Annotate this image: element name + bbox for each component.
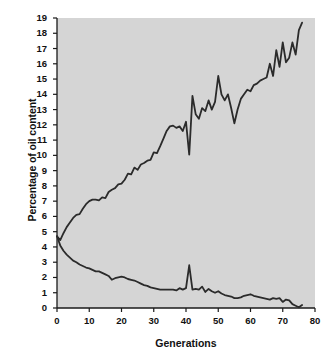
line-chart-plot — [0, 0, 330, 361]
y-axis-tick-label: 15 — [25, 73, 47, 84]
y-axis-tick-label: 10 — [25, 149, 47, 160]
y-axis-tick-label: 17 — [25, 43, 47, 54]
x-axis-tick-label: 80 — [303, 315, 327, 326]
x-axis-tick-label: 20 — [110, 315, 134, 326]
y-axis-tick-label: 13 — [25, 104, 47, 115]
x-axis-title: Generations — [57, 337, 315, 349]
y-axis-tick-label: 2 — [25, 271, 47, 282]
x-axis-tick-label: 30 — [142, 315, 166, 326]
x-axis-tick-label: 10 — [77, 315, 101, 326]
y-axis-tick-label: 5 — [25, 226, 47, 237]
plot-background — [57, 18, 315, 308]
y-axis-tick-label: 4 — [25, 241, 47, 252]
y-axis-tick-label: 11 — [25, 134, 47, 145]
x-axis-tick-label: 0 — [45, 315, 69, 326]
y-axis-tick-label: 12 — [25, 119, 47, 130]
y-axis-tick-label: 3 — [25, 256, 47, 267]
y-axis-tick-label: 14 — [25, 88, 47, 99]
y-axis-tick-label: 1 — [25, 287, 47, 298]
y-axis-tick-label: 6 — [25, 210, 47, 221]
y-axis-tick-label: 8 — [25, 180, 47, 191]
x-axis-tick-label: 50 — [206, 315, 230, 326]
y-axis-tick-label: 18 — [25, 27, 47, 38]
x-axis-tick-label: 70 — [271, 315, 295, 326]
x-axis-tick-label: 40 — [174, 315, 198, 326]
y-axis-tick-label: 9 — [25, 165, 47, 176]
y-axis-tick-label: 7 — [25, 195, 47, 206]
chart-figure: Percentage of oil content Generations 01… — [0, 0, 330, 361]
y-axis-tick-label: 19 — [25, 12, 47, 23]
y-axis-tick-label: 0 — [25, 302, 47, 313]
y-axis-tick-label: 16 — [25, 58, 47, 69]
x-axis-tick-label: 60 — [239, 315, 263, 326]
